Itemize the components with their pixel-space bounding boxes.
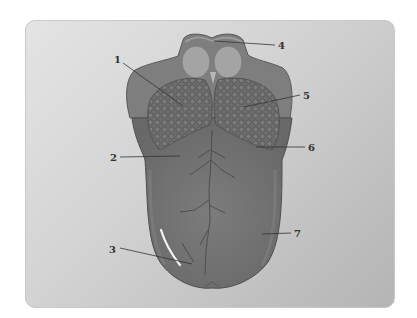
label-5: 5 — [303, 90, 310, 101]
label-1: 1 — [114, 54, 121, 65]
label-6: 6 — [308, 142, 315, 153]
label-3: 3 — [109, 244, 116, 255]
tonsil-right — [214, 46, 242, 78]
label-4: 4 — [278, 40, 285, 51]
label-2: 2 — [110, 152, 117, 163]
tongue-diagram: 1 2 3 4 5 6 7 — [0, 0, 417, 318]
tonsil-left — [182, 46, 210, 78]
label-7: 7 — [294, 228, 301, 239]
